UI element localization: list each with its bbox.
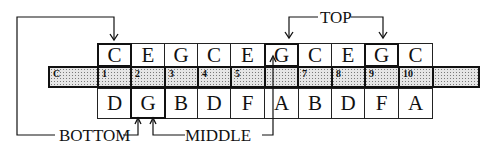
bottom-cell-8: D xyxy=(331,88,365,119)
hole-number-9: 9 xyxy=(366,68,400,86)
hole-number-10: 10 xyxy=(400,68,434,86)
hole-number-strip: C 1 2 3 4 5 7 8 9 10 xyxy=(48,66,480,88)
bottom-cell-1: D xyxy=(97,88,132,119)
top-cell-9: G xyxy=(364,43,399,67)
top-cell-5: E xyxy=(230,43,265,67)
top-cell-7: C xyxy=(298,43,332,67)
hole-number-7: 7 xyxy=(299,68,333,86)
hole-number-2: 2 xyxy=(132,68,166,86)
middle-label: MIDDLE xyxy=(183,127,253,144)
hole-number-3: 3 xyxy=(166,68,199,86)
top-cell-1: C xyxy=(97,43,132,67)
hole-number-1: 1 xyxy=(99,68,132,86)
hole-number-8: 8 xyxy=(333,68,366,86)
bottom-cell-10: A xyxy=(398,88,433,119)
top-cell-8: E xyxy=(331,43,365,67)
bottom-cell-2: G xyxy=(130,87,166,119)
top-cell-3: G xyxy=(164,43,198,67)
strip-trailing-blank xyxy=(434,68,479,86)
top-cell-6: G xyxy=(264,43,299,67)
bottom-label: BOTTOM xyxy=(57,127,132,144)
top-cell-4: C xyxy=(197,43,231,67)
bottom-cell-5: F xyxy=(230,88,265,119)
top-cell-2: E xyxy=(131,43,165,67)
bottom-cell-3: B xyxy=(164,88,198,119)
strip-lead-label: C xyxy=(50,68,99,86)
hole-number-5: 5 xyxy=(232,68,266,86)
top-label: TOP xyxy=(318,9,354,26)
hole-number-6 xyxy=(266,68,299,86)
bottom-cell-7: B xyxy=(298,88,332,119)
hole-number-4: 4 xyxy=(199,68,232,86)
harmonica-note-diagram: C E G C E G C E G C C 1 2 3 4 5 7 8 9 10… xyxy=(0,0,487,155)
bottom-cell-6: A xyxy=(264,88,299,119)
bottom-cell-9: F xyxy=(364,88,399,119)
bottom-cell-4: D xyxy=(197,88,231,119)
top-cell-10: C xyxy=(398,43,433,67)
